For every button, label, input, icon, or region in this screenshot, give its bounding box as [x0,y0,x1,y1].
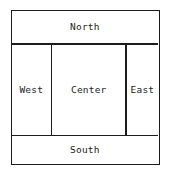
divider-center-east [125,43,127,136]
region-south[interactable]: South [12,136,158,162]
region-north[interactable]: North [12,11,158,43]
region-east-label: East [131,85,155,95]
region-south-label: South [70,145,100,155]
region-center-label: Center [71,85,107,95]
region-east[interactable]: East [127,45,158,135]
region-west[interactable]: West [12,45,51,135]
region-west-label: West [19,85,43,95]
divider-north-middle [12,43,158,45]
region-north-label: North [70,22,100,32]
divider-middle-south [12,135,158,137]
border-layout-frame: North West Center East South [11,10,160,165]
diagram-canvas: North West Center East South [0,0,171,176]
divider-west-center [51,43,53,136]
region-center[interactable]: Center [52,45,125,135]
